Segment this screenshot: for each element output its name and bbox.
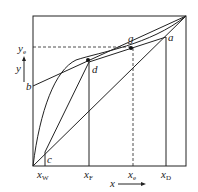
label-y-axis: y (15, 62, 21, 74)
rectifying-operating-line (33, 16, 186, 86)
point-d-dot (86, 58, 90, 62)
point-g-dot (129, 46, 133, 50)
label-xd: xD (160, 168, 171, 182)
label-d: d (92, 63, 98, 75)
label-ye: ye (17, 42, 26, 56)
diagonal-line (33, 16, 186, 166)
y-arrowhead-icon (22, 56, 26, 61)
stripping-operating-line (45, 62, 89, 152)
label-a: a (168, 31, 174, 43)
label-xw: xW (36, 168, 49, 182)
label-x-axis: x (109, 177, 115, 189)
label-g: g (128, 32, 134, 44)
label-b: b (26, 80, 32, 92)
label-xf: xF (83, 168, 93, 182)
mccabe-thiele-diagram: g a d b c ye y xW xF xe xD x (0, 0, 198, 192)
label-xe: xe (127, 168, 136, 182)
label-c: c (47, 153, 52, 165)
x-arrowhead-icon (141, 182, 146, 186)
